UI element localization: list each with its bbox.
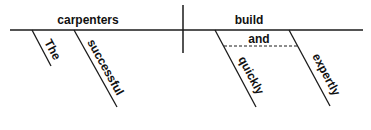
modifier-quickly: quickly (235, 54, 267, 97)
sentence-diagram: carpenters build The successful quickly … (0, 0, 371, 130)
subject-word: carpenters (57, 13, 119, 27)
modifier-expertly: expertly (309, 51, 343, 98)
predicate-word: build (235, 13, 264, 27)
modifier-successful: successful (84, 37, 126, 98)
conjunction-word: and (248, 32, 269, 46)
modifier-the: The (41, 37, 64, 63)
